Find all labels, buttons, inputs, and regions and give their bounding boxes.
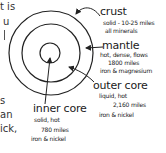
mantle-detail-3: iron & magnesium [100, 68, 152, 74]
outer-core-detail-3: iron & nickel [99, 112, 134, 118]
crust-label: crust [100, 6, 127, 17]
mantle-detail-2: 1800 miles [108, 60, 139, 66]
mantle-circle [22, 24, 80, 82]
outer-core-detail-2: 2,160 miles [113, 102, 146, 108]
mantle-detail-1: hot, dense, flows [100, 52, 148, 58]
crust-detail-2: all minerals [105, 28, 137, 34]
inner-core-detail-2: 780 miles [41, 127, 69, 133]
inner-core-detail-3: iron & nickel [31, 136, 66, 142]
outer-core-detail-1: liquid, hot [99, 93, 127, 99]
mantle-label: mantle [102, 40, 139, 51]
mantle-arrow [86, 47, 103, 48]
crust-arrow [76, 8, 100, 16]
inner-core-detail-1: solid, hot [34, 117, 60, 123]
outer-core-label: outer core [93, 80, 148, 91]
crust-detail-1: solid - 10-25 miles [103, 20, 154, 26]
inner-core-label: inner core [33, 103, 87, 114]
